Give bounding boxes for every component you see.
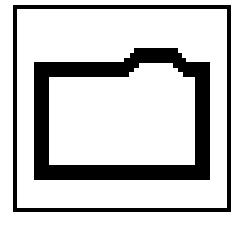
- folder-icon[interactable]: [0, 0, 238, 226]
